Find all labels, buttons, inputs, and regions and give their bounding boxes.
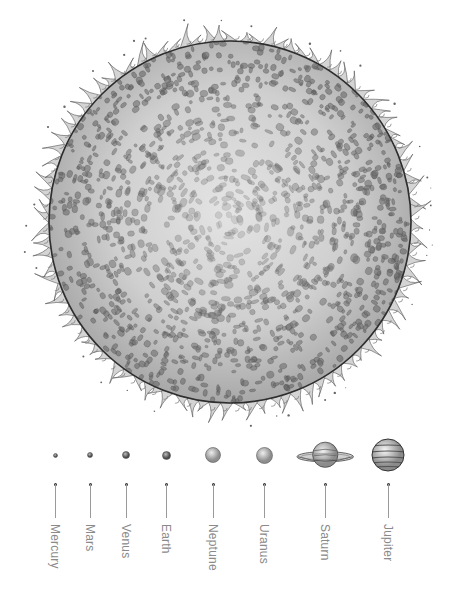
planet-label-mars: Mars (83, 524, 97, 551)
planet-saturn (296, 439, 355, 471)
planet-label-jupiter: Jupiter (381, 524, 395, 561)
leader-line-neptune (213, 484, 214, 518)
leader-line-saturn (325, 484, 326, 518)
planet-neptune (205, 447, 221, 463)
planet-label-venus: Venus (119, 524, 133, 558)
planet-mars (87, 452, 93, 458)
planet-label-saturn: Saturn (318, 524, 332, 561)
planet-label-mercury: Mercury (48, 524, 62, 569)
planet-mercury (53, 453, 58, 458)
planet-label-uranus: Uranus (257, 524, 271, 564)
leader-line-jupiter (388, 484, 389, 518)
planet-earth (162, 451, 171, 460)
planet-uranus (256, 447, 273, 464)
planet-venus (122, 451, 130, 459)
planet-jupiter (371, 438, 405, 472)
planet-label-earth: Earth (159, 524, 173, 554)
leader-line-mars (90, 484, 91, 518)
leader-line-mercury (55, 484, 56, 518)
leader-line-uranus (264, 484, 265, 518)
solar-system-size-diagram: Mercury Mars Venus Earth Neptune Uranus … (0, 0, 457, 590)
leader-line-venus (126, 484, 127, 518)
planet-label-neptune: Neptune (206, 524, 220, 571)
leader-line-earth (166, 484, 167, 518)
